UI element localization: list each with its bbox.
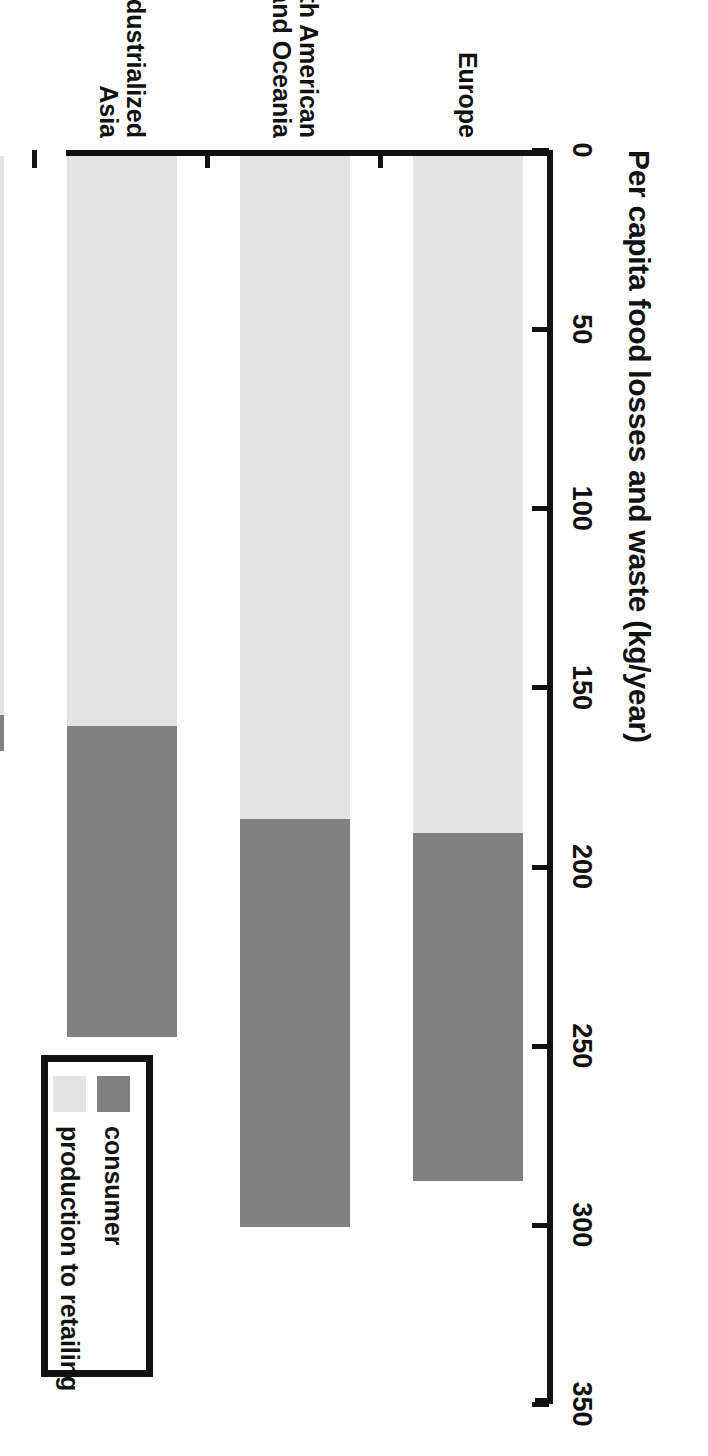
legend-item-consumer: consumer [92,1076,136,1356]
category-tick-3 [32,150,37,168]
x-tick-label-0: 0 [566,142,597,157]
bar-segment-production-to-retailing [0,156,4,715]
legend-item-production: production to retailing [48,1076,92,1356]
legend-swatch-consumer-icon [98,1076,131,1112]
bar-segment-production-to-retailing [67,156,177,726]
bar-segment-production-to-retailing [240,156,350,819]
bar-segment-consumer [67,726,177,1038]
x-tick-label-300: 300 [566,1202,597,1247]
x-tick-label-150: 150 [566,665,597,710]
x-tick-0 [532,148,549,153]
x-tick-label-100: 100 [566,486,597,531]
x-tick-50 [532,327,549,332]
legend-label-consumer: consumer [100,1126,129,1245]
x-tick-label-350: 350 [566,1381,597,1426]
x-tick-200 [532,865,549,870]
category-label: North American and Oceania [269,0,322,138]
chart-legend: consumer production to retailing [41,1055,153,1377]
legend-label-production: production to retailing [56,1126,85,1391]
rotated-figure-container: Per capita food losses and waste (kg/yea… [0,0,708,1456]
legend-swatch-production-icon [54,1076,87,1112]
bar-segment-consumer [0,715,4,751]
x-tick-100 [532,506,549,511]
category-label: Industrialized Asia [96,0,149,138]
bar-segment-consumer [413,833,523,1181]
bar-row [67,156,177,1037]
bar-segment-production-to-retailing [413,156,523,833]
x-tick-350 [532,1402,549,1407]
bar-row [0,156,4,751]
category-tick-1 [378,150,383,168]
bar-row [240,156,350,1227]
bar-segment-consumer [240,819,350,1227]
category-tick-2 [205,150,210,168]
category-label: Europe [455,0,482,138]
x-tick-label-50: 50 [566,314,597,344]
x-tick-300 [532,1223,549,1228]
value-axis-line [547,150,553,1404]
x-tick-label-250: 250 [566,1023,597,1068]
bar-row [413,156,523,1181]
x-tick-250 [532,1044,549,1049]
x-tick-150 [532,685,549,690]
x-tick-label-200: 200 [566,844,597,889]
chart-title: Per capita food losses and waste (kg/yea… [622,150,656,1330]
chart-figure: Per capita food losses and waste (kg/yea… [0,0,708,1456]
